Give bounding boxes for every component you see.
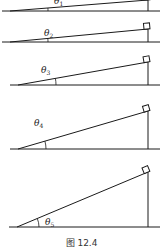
incline-surface (18, 62, 148, 85)
block (142, 166, 150, 174)
inclined-planes-diagram: θ1θ2θ3θ4θ5 (0, 0, 163, 251)
incline-panel-5: θ5 (9, 166, 160, 228)
angle-arc (37, 219, 39, 228)
block (143, 56, 150, 63)
block (143, 23, 150, 30)
angle-label: θ2 (44, 28, 53, 39)
incline-panel-4: θ4 (10, 105, 160, 149)
incline-surface (17, 172, 148, 227)
incline-surface (10, 29, 148, 42)
angle-arc (55, 78, 56, 85)
angle-label: θ1 (54, 0, 63, 7)
angle-label: θ5 (45, 217, 54, 228)
angle-label: θ3 (41, 65, 50, 76)
block (142, 105, 149, 112)
angle-label: θ4 (34, 118, 43, 129)
incline-panel-1: θ1 (2, 0, 160, 11)
incline-panel-2: θ2 (2, 23, 160, 42)
figure-caption: 图 12.4 (0, 236, 163, 249)
angle-arc (45, 141, 46, 149)
incline-surface (18, 111, 148, 149)
incline-panel-3: θ3 (10, 56, 160, 85)
incline-surface (10, 0, 148, 11)
inclined-planes-figure: θ1θ2θ3θ4θ5 图 12.4 (0, 0, 163, 251)
